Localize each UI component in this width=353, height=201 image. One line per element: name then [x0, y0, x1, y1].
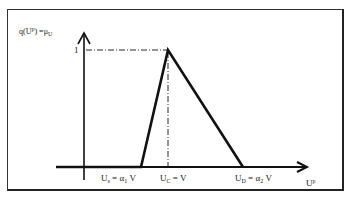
x-axis-label: Up — [306, 178, 316, 188]
tick-label-us: Us = α1 V — [101, 174, 136, 184]
tick-label-uc: UC = V — [160, 174, 186, 184]
membership-function-plot — [0, 0, 353, 201]
y-axis-label: q(Up) =μU — [19, 26, 52, 37]
peak-value-label: 1 — [74, 46, 79, 55]
tick-label-ud: UD = α2 V — [235, 174, 272, 184]
